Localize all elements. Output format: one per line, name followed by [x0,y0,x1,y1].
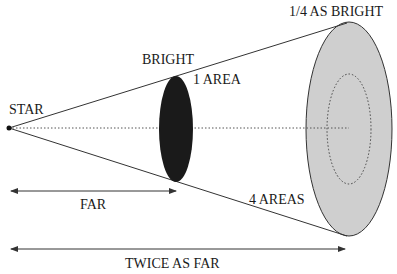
label-twice-as-far: TWICE AS FAR [125,256,220,271]
label-one-area: 1 AREA [193,72,242,87]
label-four-areas: 4 AREAS [249,192,305,207]
label-bright: BRIGHT [142,52,195,67]
label-quarter-bright: 1/4 AS BRIGHT [289,4,384,19]
far-disk [306,22,392,236]
near-disk [159,76,193,182]
inverse-square-diagram: STAR BRIGHT 1 AREA 1/4 AS BRIGHT 4 AREAS… [0,0,397,274]
label-star: STAR [9,102,44,117]
label-far: FAR [80,197,107,212]
star-dot [7,126,12,131]
